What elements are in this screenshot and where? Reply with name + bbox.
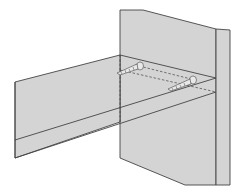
- shelf-joint-diagram: [0, 0, 242, 190]
- side-panel: [120, 10, 216, 185]
- side-panel-edge: [216, 29, 230, 185]
- shelf-front-face: [15, 55, 120, 158]
